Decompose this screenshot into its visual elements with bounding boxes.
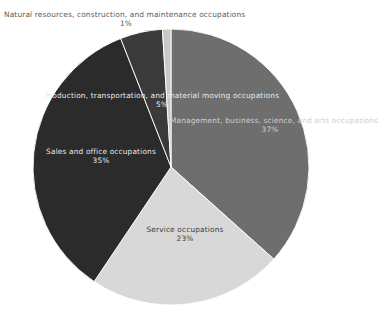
pie-chart: Natural resources, construction, and mai… — [0, 0, 388, 325]
pie-chart-canvas — [0, 0, 388, 325]
pie-slice-group — [33, 29, 309, 305]
